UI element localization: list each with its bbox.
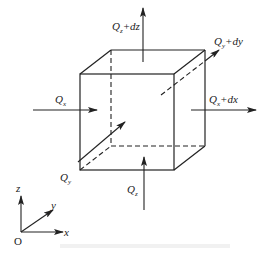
hidden-edge-bottom-left: [80, 146, 111, 170]
label-qz-out: Qz+dz: [112, 20, 141, 35]
control-volume-diagram: Qx Qx+dx Qz+dz Qz Qy Qy+dy z y x O: [0, 0, 264, 255]
arrow-qy-out: [205, 50, 219, 61]
flux-qy-out: Qy+dy: [161, 35, 243, 95]
label-qx-in: Qx: [55, 93, 67, 108]
flux-qx-in: Qx: [33, 93, 97, 110]
axis-y: [21, 210, 53, 232]
label-qz-in: Qz: [127, 183, 138, 198]
axis-y-label: y: [50, 199, 56, 211]
cube: [80, 50, 205, 170]
top-right-edge: [174, 50, 205, 74]
flux-qx-out: Qx+dx: [191, 93, 256, 110]
flux-qz-in: Qz: [127, 157, 144, 210]
axis-x-label: x: [63, 226, 69, 238]
flux-qy-in: Qy: [60, 122, 125, 186]
arrow-qy-in: [78, 122, 125, 162]
label-qx-out: Qx+dx: [209, 93, 238, 108]
top-left-edge: [80, 50, 111, 74]
label-qy-out: Qy+dy: [214, 35, 243, 50]
origin-label: O: [14, 235, 22, 247]
coordinate-axes: z y x O: [14, 182, 69, 247]
bottom-right-edge: [174, 146, 205, 170]
faint-caption-line: [60, 244, 230, 248]
axis-z-label: z: [15, 182, 21, 194]
front-face: [80, 74, 174, 170]
arrow-qy-out-dashed: [161, 61, 205, 95]
label-qy-in: Qy: [60, 171, 72, 186]
flux-qz-out: Qz+dz: [112, 8, 143, 62]
